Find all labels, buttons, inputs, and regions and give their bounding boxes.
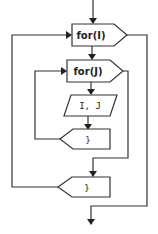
outer-loop-back (12, 31, 72, 187)
flowchart: for(I) for(J) I, J } } (0, 0, 158, 234)
arrow-inner-to-output (87, 82, 95, 95)
inner-loop-label: for(J) (73, 66, 102, 77)
outer-loop-node: for(I) (72, 24, 127, 46)
arrow-outer-to-inner (88, 46, 96, 60)
outer-end-label: } (84, 183, 89, 193)
entry-arrow (89, 0, 97, 24)
arrow-output-to-inner-end (84, 116, 92, 130)
inner-end-node: } (60, 129, 110, 149)
inner-loop-exit (89, 71, 128, 177)
inner-end-label: } (85, 135, 90, 145)
inner-loop-node: for(J) (67, 60, 123, 82)
output-label: I, J (79, 101, 101, 111)
inner-loop-back (35, 67, 67, 139)
output-node: I, J (64, 95, 117, 116)
outer-end-node: } (58, 177, 110, 197)
outer-loop-label: for(I) (76, 30, 105, 41)
